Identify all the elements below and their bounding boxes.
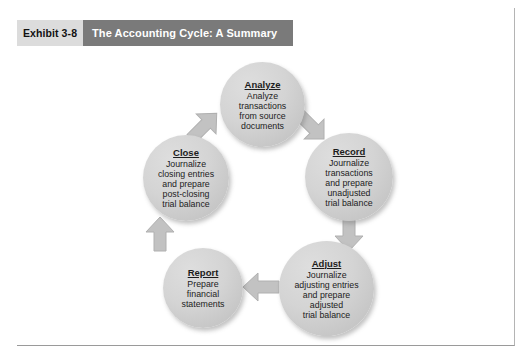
cycle-node-analyze-title: Analyze bbox=[245, 79, 281, 90]
cycle-node-analyze-body: Analyze transactions from source documen… bbox=[239, 91, 286, 131]
exhibit-card: Exhibit 3-8 The Accounting Cycle: A Summ… bbox=[0, 0, 531, 357]
cycle-node-record[interactable]: Record Journalize transactions and prepa… bbox=[305, 133, 393, 221]
accounting-cycle-diagram: Analyze Analyze transactions from source… bbox=[0, 0, 531, 357]
cycle-node-report-body: Prepare financial statements bbox=[181, 279, 224, 309]
cycle-node-report-title: Report bbox=[188, 267, 219, 278]
cycle-node-close-body: Journalize closing entries and prepare p… bbox=[158, 159, 214, 209]
cycle-node-record-title: Record bbox=[333, 146, 366, 157]
cycle-node-adjust-title: Adjust bbox=[312, 258, 342, 269]
cycle-node-close[interactable]: Close Journalize closing entries and pre… bbox=[143, 135, 229, 221]
cycle-node-close-title: Close bbox=[173, 147, 199, 158]
cycle-node-analyze[interactable]: Analyze Analyze transactions from source… bbox=[220, 62, 305, 147]
cycle-node-record-body: Journalize transactions and prepare unad… bbox=[325, 158, 372, 208]
cycle-node-adjust-body: Journalize adjusting entries and prepare… bbox=[294, 270, 358, 320]
cycle-node-adjust[interactable]: Adjust Journalize adjusting entries and … bbox=[279, 241, 374, 336]
cycle-node-report[interactable]: Report Prepare financial statements bbox=[163, 248, 243, 328]
arrow-adjust-to-report-icon bbox=[238, 268, 284, 306]
